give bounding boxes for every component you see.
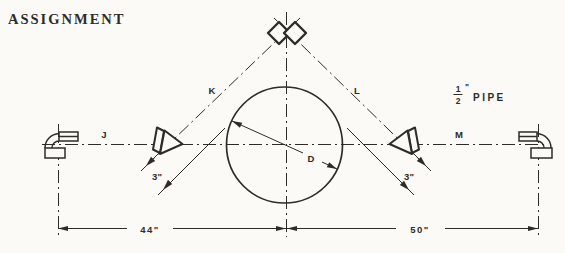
- right-elbow-base: [531, 148, 552, 158]
- span-dimensions: [58, 226, 538, 231]
- left-offset-text: 3": [152, 171, 162, 182]
- label-j: J: [101, 129, 106, 140]
- right-45-fitting: [390, 128, 420, 155]
- label-l: L: [354, 85, 360, 96]
- assignment-piping-drawing: ASSIGNMENT: [0, 0, 565, 253]
- page-title: ASSIGNMENT: [8, 11, 126, 27]
- left-45-fitting: [153, 128, 183, 155]
- dim44-left-arrowhead: [58, 226, 68, 231]
- apex-right-elbow-symbol: [284, 22, 306, 44]
- span-50-text: 50": [410, 224, 430, 235]
- left-offset-arrowhead-b: [163, 180, 172, 190]
- pipe-fraction-numerator: 1: [456, 84, 461, 94]
- diameter-arrowhead-lower: [327, 162, 337, 169]
- left-offset-dimension: [141, 128, 225, 195]
- right-offset-dimension: [347, 128, 431, 195]
- span-44-text: 44": [140, 224, 160, 235]
- pipe-word: PIPE: [473, 92, 506, 103]
- diameter-arrowhead-upper: [232, 121, 242, 128]
- right-offset-text: 3": [404, 171, 414, 182]
- label-m: M: [455, 129, 463, 140]
- diameter-line: [232, 121, 303, 153]
- label-d: D: [308, 153, 315, 164]
- dim50-left-arrowhead: [287, 226, 297, 231]
- label-k: K: [209, 85, 216, 96]
- piping-diagram-canvas: ASSIGNMENT: [0, 0, 565, 253]
- dim50-right-arrowhead: [528, 226, 538, 231]
- left-elbow-inner-arc: [52, 141, 59, 148]
- pipe-size-note: 1 2 " PIPE: [454, 82, 506, 106]
- centerlines: [42, 12, 546, 237]
- pipe-inch-mark: ": [465, 82, 469, 92]
- pipe-fraction-denominator: 2: [456, 96, 461, 106]
- left-elbow-base: [45, 148, 65, 158]
- dim44-right-arrowhead: [276, 226, 286, 231]
